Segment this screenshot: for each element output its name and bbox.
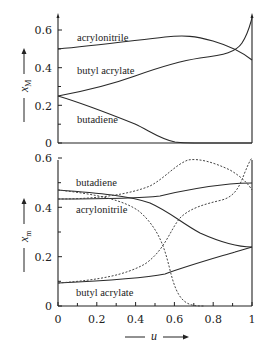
lower-ytick-0.6: 0.6 (35, 152, 53, 165)
upper-ytick-0: 0 (45, 137, 52, 150)
lower-y-label: xm (17, 198, 33, 272)
y-axis-arrow-icon (22, 198, 27, 204)
lower-label-butadiene: butadiene (76, 177, 117, 188)
upper-y-label: xM (17, 48, 33, 122)
upper-ytick-0.2: 0.2 (35, 100, 53, 113)
upper-label-butyl-acrylate: butyl acrylate (77, 65, 135, 76)
upper-ytick-0.4: 0.4 (35, 62, 53, 75)
upper-label-butadiene: butadiene (77, 114, 118, 125)
lower-xtick-1: 1 (249, 313, 256, 326)
upper-curve-butyl-acrylate (58, 18, 252, 96)
lower-xtick-0.6: 0.6 (166, 313, 184, 326)
upper-right-axis-arrow-icon (251, 13, 254, 18)
upper-panel: 0 0.2 0.4 0.6 xM acrylonitrile butyl acr… (17, 13, 254, 150)
upper-label-acrylonitrile: acrylonitrile (77, 32, 129, 43)
lower-label-acrylonitrile: acrylonitrile (76, 204, 128, 215)
svg-text:xM: xM (17, 80, 33, 93)
svg-text:u: u (151, 329, 157, 343)
lower-xtick-0.8: 0.8 (204, 313, 222, 326)
upper-y-ticks (58, 30, 62, 143)
lower-ytick-0: 0 (45, 300, 52, 313)
lower-y-ticks (58, 158, 62, 306)
lower-x-ticks (58, 302, 252, 306)
lower-ytick-0.4: 0.4 (35, 202, 53, 215)
lower-x-label: u (125, 329, 189, 343)
lower-curve-butyl-acrylate (58, 247, 252, 283)
lower-xtick-0.4: 0.4 (127, 313, 145, 326)
svg-text:xm: xm (17, 230, 33, 243)
lower-ytick-0.2: 0.2 (35, 251, 53, 264)
upper-ytick-0.6: 0.6 (35, 24, 53, 37)
lower-label-butyl-acrylate: butyl acrylate (76, 287, 134, 298)
upper-y-axis-arrow-icon (57, 13, 60, 18)
x-axis-arrow-icon (183, 335, 189, 340)
chart-figure: 0 0.2 0.4 0.6 xM acrylonitrile butyl acr… (0, 0, 269, 350)
lower-panel: 0 0.2 0.4 0.6 0 0.2 0.4 0.6 0.8 1 u (17, 152, 256, 343)
lower-xtick-0.2: 0.2 (88, 313, 106, 326)
lower-xtick-0: 0 (55, 313, 62, 326)
